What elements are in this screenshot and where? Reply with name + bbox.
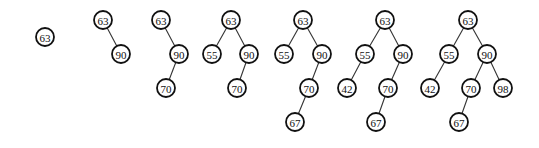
- tree-node: 67: [286, 113, 304, 131]
- node-label: 90: [482, 49, 494, 61]
- node-label: 63: [40, 32, 52, 44]
- tree-node: 55: [203, 45, 221, 63]
- node-label: 90: [174, 49, 186, 61]
- tree-node: 63: [376, 11, 394, 29]
- node-label: 67: [290, 117, 302, 129]
- tree-node: 42: [421, 79, 439, 97]
- node-label: 98: [498, 83, 510, 95]
- node-label: 63: [156, 15, 168, 27]
- node-label: 90: [116, 49, 128, 61]
- node-label: 67: [454, 117, 466, 129]
- node-label: 90: [244, 49, 256, 61]
- tree-node: 63: [94, 11, 112, 29]
- tree-node: 63: [294, 11, 312, 29]
- tree-node: 90: [478, 45, 496, 63]
- node-label: 70: [383, 83, 395, 95]
- tree-step-6: 635590427067: [338, 11, 412, 131]
- tree-step-3: 639070: [152, 11, 188, 97]
- tree-node: 90: [240, 45, 258, 63]
- tree-node: 63: [222, 11, 240, 29]
- tree-node: 70: [300, 79, 318, 97]
- tree-node: 90: [112, 45, 130, 63]
- tree-node: 55: [356, 45, 374, 63]
- tree-node: 90: [170, 45, 188, 63]
- node-label: 42: [342, 83, 353, 95]
- node-label: 70: [466, 83, 478, 95]
- node-label: 42: [425, 83, 436, 95]
- tree-node: 70: [462, 79, 480, 97]
- node-label: 90: [398, 49, 410, 61]
- node-label: 63: [298, 15, 310, 27]
- tree-node: 55: [275, 45, 293, 63]
- node-label: 70: [232, 83, 244, 95]
- tree-node: 90: [313, 45, 331, 63]
- node-label: 63: [98, 15, 110, 27]
- tree-node: 98: [494, 79, 512, 97]
- node-label: 90: [317, 49, 329, 61]
- tree-step-1: 63: [36, 28, 54, 46]
- node-label: 63: [380, 15, 392, 27]
- tree-step-4: 63559070: [203, 11, 258, 97]
- node-label: 63: [463, 15, 475, 27]
- node-label: 63: [226, 15, 238, 27]
- tree-node: 42: [338, 79, 356, 97]
- node-label: 55: [279, 49, 291, 61]
- tree-node: 70: [379, 79, 397, 97]
- tree-node: 70: [228, 79, 246, 97]
- tree-node: 55: [440, 45, 458, 63]
- node-label: 55: [207, 49, 219, 61]
- node-label: 55: [360, 49, 372, 61]
- bst-insertion-diagram: 6363906390706355907063559070676355904270…: [0, 0, 539, 148]
- node-label: 55: [444, 49, 456, 61]
- tree-node: 63: [152, 11, 170, 29]
- tree-step-2: 6390: [94, 11, 130, 63]
- tree-node: 70: [157, 79, 175, 97]
- tree-node: 67: [450, 113, 468, 131]
- tree-step-5: 6355907067: [275, 11, 331, 131]
- tree-node: 67: [367, 113, 385, 131]
- tree-node: 63: [459, 11, 477, 29]
- node-label: 70: [161, 83, 173, 95]
- tree-step-7: 63559042709867: [421, 11, 512, 131]
- node-label: 67: [371, 117, 383, 129]
- tree-node: 63: [36, 28, 54, 46]
- tree-node: 90: [394, 45, 412, 63]
- node-label: 70: [304, 83, 316, 95]
